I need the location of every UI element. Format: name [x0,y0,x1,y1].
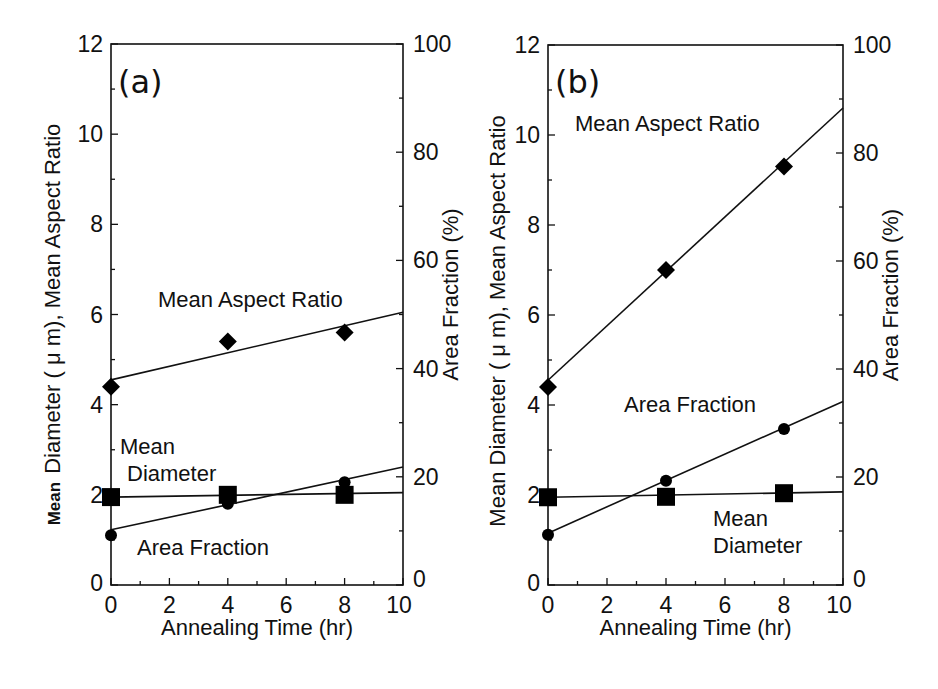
square-marker [657,488,675,506]
square-marker [539,488,557,506]
right-y-tick-label: 60 [413,247,439,273]
right-y-tick-label: 100 [413,31,451,57]
circle-marker [778,423,790,435]
circle-marker [660,475,672,487]
square-marker [775,484,793,502]
mean-diameter-fit-line [111,493,403,498]
left-y-tick-label: 4 [527,392,540,418]
panel-a-chart: 0246810024681012020406080100Annealing Ti… [40,31,463,640]
left-y-tick-label: 6 [90,302,103,328]
annotation-mean-diameter-line2: Diameter [713,533,802,558]
x-tick-label: 10 [826,592,852,618]
left-y-axis-title-prefix: Mean [45,482,64,525]
panel-label: (b) [555,63,600,101]
plot-frame [111,44,403,585]
right-y-axis-title: Area Fraction (%) [438,208,463,380]
left-y-tick-label: 8 [90,211,103,237]
mean-aspect-ratio-fit-line [111,312,403,380]
circle-marker [222,498,234,510]
annotation-mean-diameter-line1: Mean [120,434,175,459]
left-y-tick-label: 2 [527,482,540,508]
circle-marker [105,529,117,541]
panel-label: (a) [118,63,163,101]
left-y-tick-label: 4 [90,392,103,418]
annotation-mean-diameter-line1: Mean [713,506,768,531]
x-axis-title: Annealing Time (hr) [600,615,792,640]
panel-b-chart: 0246810024681012020406080100Annealing Ti… [485,32,903,640]
diamond-marker [775,158,793,176]
left-y-axis-title-main: Diameter ( μ m), Mean Aspect Ratio [40,124,65,474]
right-y-tick-label: 0 [853,566,866,592]
left-y-axis-title: Mean Diameter ( μ m), Mean Aspect Ratio [485,115,510,526]
circle-marker [542,529,554,541]
diamond-marker [336,324,354,342]
x-axis-title: Annealing Time (hr) [161,615,353,640]
right-y-tick-label: 60 [853,248,879,274]
left-y-tick-label: 10 [77,121,103,147]
mean-aspect-ratio-fit-line [548,108,843,380]
right-y-axis-title: Area Fraction (%) [878,209,903,381]
circle-marker [339,476,351,488]
figure-canvas: 0246810024681012020406080100Annealing Ti… [0,0,938,689]
mean-diameter-fit-line [548,492,843,497]
right-y-tick-label: 100 [853,32,891,58]
area-fraction-fit-line [548,401,843,533]
left-y-tick-label: 8 [527,212,540,238]
right-y-tick-label: 20 [853,464,879,490]
square-marker [336,486,354,504]
x-tick-label: 0 [542,592,555,618]
left-y-axis-title: MeanDiameter ( μ m), Mean Aspect Ratio [40,124,65,526]
left-y-tick-label: 12 [77,31,103,57]
annotation-area-fraction: Area Fraction [624,392,756,417]
right-y-tick-label: 0 [413,566,426,592]
annotation-mean-aspect-ratio: Mean Aspect Ratio [158,287,343,312]
left-y-tick-label: 0 [90,570,103,596]
right-y-tick-label: 20 [413,464,439,490]
right-y-tick-label: 40 [413,356,439,382]
x-tick-label: 10 [386,592,412,618]
diamond-marker [102,378,120,396]
annotation-mean-diameter-line2: Diameter [127,461,216,486]
right-y-tick-label: 80 [853,140,879,166]
diamond-marker [539,378,557,396]
diamond-marker [219,333,237,351]
left-y-tick-label: 10 [514,122,540,148]
right-y-tick-label: 40 [853,356,879,382]
square-marker [102,488,120,506]
annotation-area-fraction: Area Fraction [137,535,269,560]
left-y-tick-label: 6 [527,302,540,328]
left-y-tick-label: 12 [514,32,540,58]
annotation-mean-aspect-ratio: Mean Aspect Ratio [575,111,760,136]
right-y-tick-label: 80 [413,139,439,165]
left-y-tick-label: 2 [90,482,103,508]
x-tick-label: 0 [105,592,118,618]
left-y-tick-label: 0 [527,570,540,596]
